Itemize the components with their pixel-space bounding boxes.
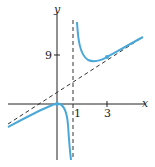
x-axis-label: x	[142, 98, 148, 109]
graph: y x 9 1 3	[0, 0, 155, 167]
tick-label-1: 1	[74, 108, 81, 119]
point-local-max	[55, 102, 59, 106]
curve-right-branch	[77, 22, 143, 61]
tick-label-9: 9	[45, 50, 52, 61]
y-axis-label: y	[54, 4, 60, 15]
tick-label-3: 3	[104, 108, 111, 119]
plot-area	[0, 0, 155, 167]
point-local-min	[105, 55, 109, 59]
curve-left-branch	[8, 104, 71, 160]
